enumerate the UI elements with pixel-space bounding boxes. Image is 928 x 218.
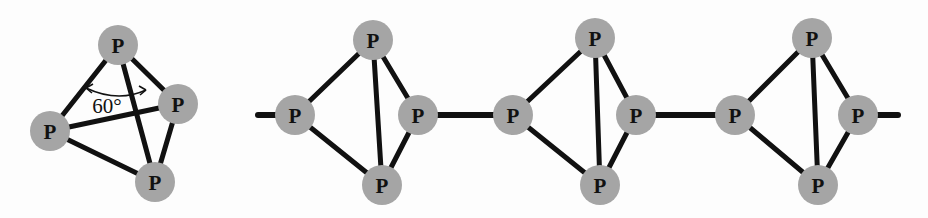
atom-symbol-label: P — [112, 34, 125, 58]
atom-t1-bottom: P — [135, 162, 175, 202]
atom-c2-bottom: P — [580, 165, 620, 205]
atom-symbol-label: P — [589, 27, 602, 51]
phosphorus-structures-figure: 60° PPPPPPPPPPPPPPPP — [0, 0, 928, 218]
atom-symbol-label: P — [172, 93, 185, 117]
atom-symbol-label: P — [594, 174, 607, 198]
atom-symbol-label: P — [376, 174, 389, 198]
atom-c1-bottom: P — [362, 165, 402, 205]
atom-symbol-label: P — [44, 120, 57, 144]
phosphorus-diagram-canvas: 60° PPPPPPPPPPPPPPPP — [0, 0, 928, 218]
atom-c1-right: P — [398, 95, 438, 135]
atom-symbol-label: P — [630, 104, 643, 128]
atom-c3-top: P — [792, 18, 832, 58]
atom-symbol-label: P — [289, 104, 302, 128]
atom-c1-left: P — [275, 95, 315, 135]
atom-symbol-label: P — [507, 104, 520, 128]
atom-layer: PPPPPPPPPPPPPPPP — [30, 18, 878, 205]
atom-symbol-label: P — [806, 27, 819, 51]
atom-t1-top: P — [98, 25, 138, 65]
atom-c3-left: P — [715, 95, 755, 135]
bond-angle-label: 60° — [92, 94, 121, 118]
atom-symbol-label: P — [367, 29, 380, 53]
atom-symbol-label: P — [149, 171, 162, 195]
bond-c2-top-c2-bottom — [595, 38, 600, 185]
atom-symbol-label: P — [812, 174, 825, 198]
angle-arrowhead-right — [139, 86, 146, 95]
atom-c3-right: P — [838, 95, 878, 135]
atom-c2-top: P — [575, 18, 615, 58]
atom-c3-bottom: P — [798, 165, 838, 205]
atom-c1-top: P — [353, 20, 393, 60]
bond-c1-top-c1-bottom — [373, 40, 382, 185]
atom-symbol-label: P — [729, 104, 742, 128]
bond-c3-top-c3-bottom — [812, 38, 818, 185]
atom-t1-right: P — [158, 84, 198, 124]
atom-c2-right: P — [616, 95, 656, 135]
atom-symbol-label: P — [852, 104, 865, 128]
atom-symbol-label: P — [412, 104, 425, 128]
atom-c2-left: P — [493, 95, 533, 135]
atom-t1-left: P — [30, 111, 70, 151]
